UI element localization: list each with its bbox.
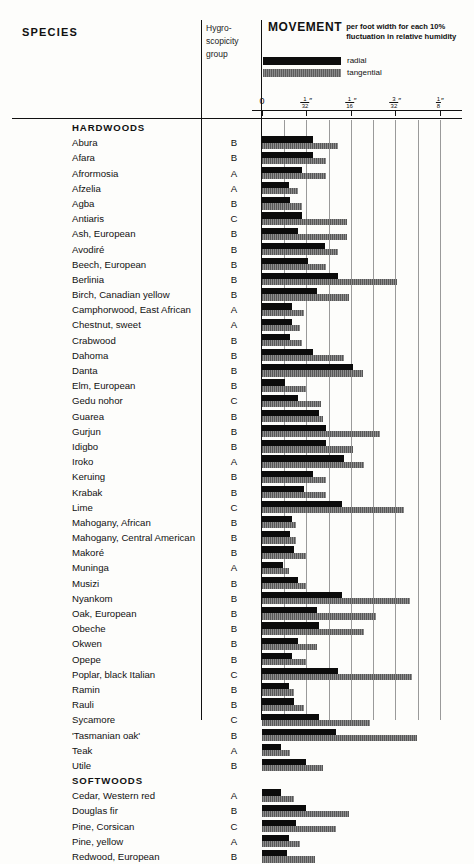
species-row: Mahogany, AfricanB bbox=[0, 515, 474, 530]
species-name: Dahoma bbox=[72, 349, 108, 362]
legend-label-tangential: tangential bbox=[347, 68, 382, 77]
species-name: Gedu nohor bbox=[72, 394, 123, 407]
bar-radial bbox=[262, 228, 298, 234]
hygroscopicity-group-value: B bbox=[228, 227, 240, 240]
species-name: Utile bbox=[72, 759, 91, 772]
species-name: Sycamore bbox=[72, 713, 115, 726]
bar-group bbox=[262, 257, 462, 272]
bar-radial bbox=[262, 698, 294, 704]
species-row: Cedar, Western redA bbox=[0, 788, 474, 803]
bar-group bbox=[262, 728, 462, 743]
hygroscopicity-group-value: B bbox=[228, 653, 240, 666]
bar-tangential bbox=[262, 462, 364, 468]
species-row: RauliB bbox=[0, 697, 474, 712]
bar-group bbox=[262, 606, 462, 621]
species-name: 'Tasmanian oak' bbox=[72, 729, 140, 742]
species-column-header: SPECIES bbox=[22, 26, 78, 38]
species-row: SycamoreC bbox=[0, 712, 474, 727]
hygroscopicity-group-value: B bbox=[228, 683, 240, 696]
hygroscopicity-group-value: B bbox=[228, 546, 240, 559]
bar-group bbox=[262, 591, 462, 606]
bar-group bbox=[262, 363, 462, 378]
hygroscopicity-group-value: B bbox=[228, 804, 240, 817]
bar-tangential bbox=[262, 431, 380, 437]
hygroscopicity-group-value: B bbox=[228, 470, 240, 483]
species-row: IrokoA bbox=[0, 454, 474, 469]
species-row: Redwood, EuropeanB bbox=[0, 849, 474, 864]
hygroscopicity-group-value: B bbox=[228, 334, 240, 347]
bar-radial bbox=[262, 653, 292, 659]
bar-tangential bbox=[262, 294, 349, 300]
bar-group bbox=[262, 333, 462, 348]
species-name: Redwood, European bbox=[72, 850, 159, 863]
hygroscopicity-group-value: C bbox=[228, 501, 240, 514]
axis-tick bbox=[440, 111, 441, 116]
legend-swatch-tangential bbox=[263, 69, 341, 77]
bar-radial bbox=[262, 744, 281, 750]
hygro-line-2: scopicity bbox=[206, 35, 252, 48]
bar-tangential bbox=[262, 340, 302, 346]
species-name: Nyankom bbox=[72, 592, 113, 605]
species-row: NyankomB bbox=[0, 591, 474, 606]
bar-tangential bbox=[262, 279, 397, 285]
bar-tangential bbox=[262, 355, 344, 361]
bar-group bbox=[262, 393, 462, 408]
species-name: Agba bbox=[72, 197, 94, 210]
bar-group bbox=[262, 211, 462, 226]
species-name: Iroko bbox=[72, 455, 93, 468]
hygroscopicity-group-value: B bbox=[228, 136, 240, 149]
hygroscopicity-group-value: B bbox=[228, 516, 240, 529]
bar-radial bbox=[262, 258, 308, 264]
species-name: Chestnut, sweet bbox=[72, 318, 141, 331]
species-name: Makoré bbox=[72, 546, 104, 559]
bar-group bbox=[262, 545, 462, 560]
bar-tangential bbox=[262, 598, 410, 604]
bar-tangential bbox=[262, 446, 353, 452]
axis-tick bbox=[262, 111, 263, 116]
species-row: LimeC bbox=[0, 500, 474, 515]
bar-tangential bbox=[262, 841, 300, 847]
bar-radial bbox=[262, 455, 344, 461]
bar-group bbox=[262, 515, 462, 530]
bar-tangential bbox=[262, 203, 302, 209]
species-row: Camphorwood, East AfricanA bbox=[0, 302, 474, 317]
species-name: Idigbo bbox=[72, 440, 98, 453]
bar-tangential bbox=[262, 264, 326, 270]
species-name: SOFTWOODS bbox=[72, 774, 143, 787]
bar-radial bbox=[262, 759, 306, 765]
species-row: TeakA bbox=[0, 743, 474, 758]
bar-group bbox=[262, 317, 462, 332]
bar-radial bbox=[262, 531, 290, 537]
species-name: Opepe bbox=[72, 653, 101, 666]
hygroscopicity-group-value: B bbox=[228, 273, 240, 286]
bar-radial bbox=[262, 288, 317, 294]
bar-radial bbox=[262, 349, 313, 355]
species-row: Gedu nohorC bbox=[0, 393, 474, 408]
bar-radial bbox=[262, 425, 326, 431]
species-row: AntiarisC bbox=[0, 211, 474, 226]
bar-tangential bbox=[262, 568, 289, 574]
group-heading-row: HARDWOODS bbox=[0, 120, 474, 135]
bar-radial bbox=[262, 638, 298, 644]
species-row: KeruingB bbox=[0, 469, 474, 484]
hygroscopicity-group-value: B bbox=[228, 622, 240, 635]
hygroscopicity-group-value: B bbox=[228, 592, 240, 605]
hygroscopicity-group-value: B bbox=[228, 379, 240, 392]
species-row: ObecheB bbox=[0, 621, 474, 636]
species-name: Ramin bbox=[72, 683, 100, 696]
bar-group bbox=[262, 758, 462, 773]
hygroscopicity-group-value: B bbox=[228, 288, 240, 301]
hygroscopicity-group-value: A bbox=[228, 167, 240, 180]
species-rows: HARDWOODSAburaBAfaraBAfrormosiaAAfzeliaA… bbox=[0, 120, 474, 864]
species-name: Birch, Canadian yellow bbox=[72, 288, 170, 301]
species-name: Lime bbox=[72, 501, 93, 514]
bar-group bbox=[262, 272, 462, 287]
legend-swatch-radial bbox=[263, 57, 341, 65]
bar-radial bbox=[262, 182, 289, 188]
header-rule bbox=[12, 118, 462, 119]
bar-radial bbox=[262, 471, 313, 477]
species-row: OkwenB bbox=[0, 636, 474, 651]
bar-group bbox=[262, 803, 462, 818]
bar-group bbox=[262, 287, 462, 302]
bar-tangential bbox=[262, 416, 323, 422]
